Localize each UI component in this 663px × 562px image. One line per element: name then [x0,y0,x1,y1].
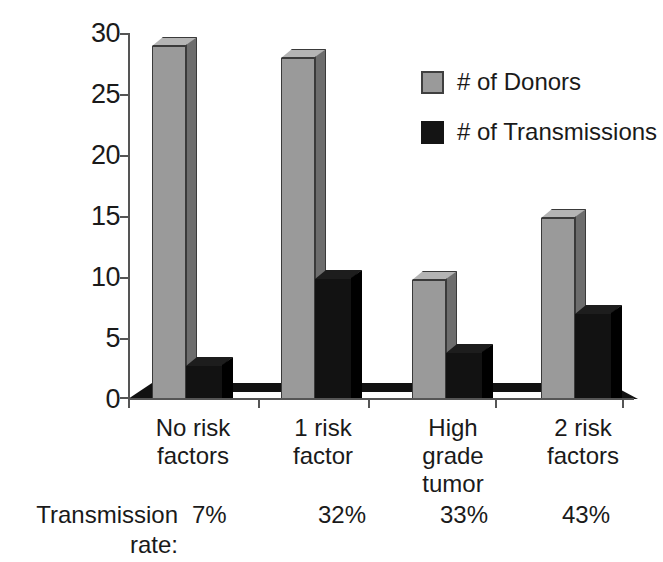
floor-left-wedge [128,383,152,399]
bar-front-face [152,46,186,399]
x-category-label-3: 2 risk factors [513,414,653,470]
bar-donors-no-risk-factors [152,37,186,399]
y-tick-label-30: 30 [76,20,120,47]
y-tick-label-25: 25 [76,81,120,108]
y-tick-label-5: 5 [76,325,120,352]
y-tick-20 [120,155,129,157]
bar-side-face [611,305,622,399]
y-tick-15 [120,216,129,218]
bar-transmissions-2-risk-factors [575,305,611,399]
x-tick-0 [128,398,130,408]
bar-front-face [575,314,611,399]
bar-donors-2-risk-factors [541,209,575,399]
bar-front-face [446,353,482,399]
y-tick-25 [120,94,129,96]
legend-swatch-donors-icon [421,71,444,94]
y-tick-label-10: 10 [76,264,120,291]
bar-chart: 30 25 20 15 10 5 0 [0,0,663,562]
y-tick-5 [120,338,129,340]
bar-side-face [186,37,197,399]
bar-donors-1-risk-factor [281,49,315,399]
y-tick-30 [120,33,129,35]
bar-donors-high-grade-tumor [412,271,446,399]
x-category-label-1: 1 risk factor [253,414,393,470]
legend-item-transmissions: # of Transmissions [421,120,657,144]
x-tick-2 [368,398,370,408]
y-tick-label-0: 0 [76,386,120,413]
y-tick-label-15: 15 [76,203,120,230]
x-tick-3 [495,398,497,408]
x-tick-4 [622,398,624,408]
legend: # of Donors # of Transmissions [421,70,657,170]
transmission-rate-label: Transmission rate: [18,500,178,560]
bar-front-face [412,280,446,399]
x-category-label-0: No risk factors [123,414,263,470]
bar-transmissions-no-risk-factors [186,357,222,399]
transmission-rate-value-2: 33% [440,500,488,530]
y-tick-10 [120,277,129,279]
legend-label-donors: # of Donors [457,70,581,94]
legend-item-donors: # of Donors [421,70,657,94]
y-tick-label-20: 20 [76,142,120,169]
bar-transmissions-high-grade-tumor [446,344,482,399]
bar-transmissions-1-risk-factor [315,270,351,399]
legend-swatch-transmissions-icon [421,121,444,144]
bar-side-face [351,270,362,399]
transmission-rate-value-1: 32% [318,500,366,530]
bar-front-face [281,58,315,399]
legend-label-transmissions: # of Transmissions [457,120,657,144]
bar-front-face [541,218,575,399]
transmission-rate-value-0: 7% [192,500,227,530]
bar-side-face [482,344,493,399]
x-axis-line [128,398,634,400]
bar-front-face [315,279,351,399]
x-tick-1 [258,398,260,408]
transmission-rate-value-3: 43% [562,500,610,530]
x-category-label-2: High grade tumor [383,414,523,498]
bar-front-face [186,366,222,399]
